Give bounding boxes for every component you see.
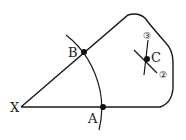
point-a	[100, 104, 106, 110]
label-c: C	[151, 50, 161, 65]
label-mark-3: ③	[143, 31, 151, 41]
label-a: A	[87, 111, 98, 126]
construction-diagram: X A B C ③ ②	[0, 0, 186, 140]
label-x: X	[10, 100, 20, 115]
label-mark-2: ②	[159, 70, 167, 80]
label-b: B	[68, 45, 78, 60]
point-c	[144, 56, 150, 62]
point-b	[81, 49, 87, 55]
